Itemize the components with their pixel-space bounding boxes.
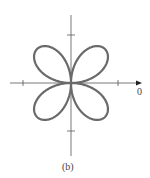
polar-axis-zero-label: 0 xyxy=(137,86,142,97)
axes xyxy=(10,15,142,156)
polar-graph xyxy=(0,0,150,178)
axis-arrow-icon xyxy=(136,81,142,86)
figure-caption: (b) xyxy=(62,161,74,172)
